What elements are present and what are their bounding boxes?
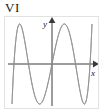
axes-group (8, 17, 99, 106)
y-axis-arrow-icon (49, 17, 56, 23)
x-axis-label: x (90, 68, 95, 78)
figure-roman-numeral-label: VI (5, 0, 20, 15)
plot-svg: y x (5, 17, 99, 109)
x-axis-arrow-icon (93, 61, 99, 68)
y-axis-label: y (42, 19, 47, 29)
lissajous-figure: VI y x (0, 0, 102, 111)
plot-panel: y x (4, 16, 99, 109)
